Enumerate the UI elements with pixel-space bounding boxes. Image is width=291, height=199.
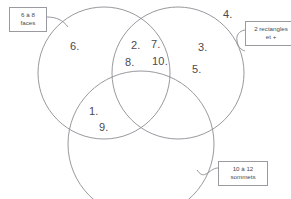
set-label-faces: 6 à 8 faces [9,7,47,32]
connector-line-faces [47,17,68,27]
venn-item-5: 5. [192,64,202,75]
set-label-faces-line2: faces [14,19,42,27]
set-label-rectangles: 2 rectangles et + [245,21,291,46]
venn-item-3: 3. [198,42,208,53]
set-label-rectangles-line2: et + [250,33,291,41]
set-label-sommets: 10 à 12 sommets [218,161,268,186]
set-label-faces-line1: 6 à 8 [14,11,42,19]
venn-item-4: 4. [223,9,233,20]
venn-item-10: 10. [152,56,168,67]
venn-item-1: 1. [89,106,99,117]
venn-item-7: 7. [151,39,161,50]
venn-circle-rectangles [112,7,244,139]
set-label-sommets-line1: 10 à 12 [223,165,263,173]
set-label-sommets-line2: sommets [223,173,263,181]
venn-item-2: 2. [131,40,141,51]
venn-item-8: 8. [125,57,135,68]
venn-item-9: 9. [99,122,109,133]
venn-circle-faces [38,7,170,139]
venn-diagram-canvas: 6 à 8 faces 2 rectangles et + 10 à 12 so… [0,0,291,199]
connector-line-rectangles [237,30,245,51]
venn-item-6: 6. [70,41,80,52]
set-label-rectangles-line1: 2 rectangles [250,25,291,33]
venn-circle-sommets [68,71,214,199]
